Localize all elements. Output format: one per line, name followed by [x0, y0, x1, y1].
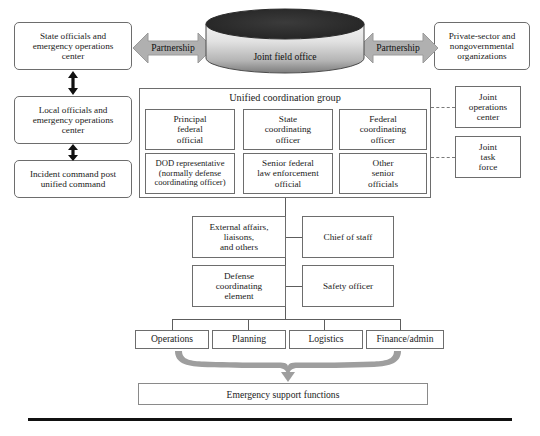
sections-drop-planning [248, 319, 249, 330]
finance-admin-box[interactable]: Finance/admin [366, 330, 444, 349]
joint-task-force-box[interactable]: Joint task force [455, 136, 521, 178]
logistics-label: Logistics [308, 334, 343, 345]
converging-brace-arrow [172, 349, 404, 383]
joint-field-office-diagram: Joint field office Partnership Partnersh… [0, 0, 540, 436]
dod-representative-box[interactable]: DOD representative (normally defense coo… [145, 153, 235, 194]
unified-coordination-group-title: Unified coordination group [139, 92, 431, 103]
federal-coordinating-officer-label: Federal coordinating officer [360, 114, 406, 145]
state-coordinating-officer-box[interactable]: State coordinating officer [243, 109, 333, 150]
defense-coordinating-element-box[interactable]: Defense coordinating element [192, 265, 286, 307]
emergency-support-functions-label: Emergency support functions [227, 389, 340, 400]
other-senior-officials-label: Other senior officials [368, 158, 398, 189]
bottom-rule [28, 418, 512, 421]
state-coordinating-officer-label: State coordinating officer [265, 114, 311, 145]
chief-of-staff-box[interactable]: Chief of staff [302, 216, 394, 258]
state-local-double-arrow [66, 71, 80, 95]
sections-drop-logistics [324, 319, 325, 330]
principal-federal-official-label: Principal federal official [173, 114, 206, 145]
state-officials-box[interactable]: State officials and emergency operations… [14, 22, 132, 70]
joint-task-force-label: Joint task force [479, 142, 498, 173]
sections-drop-operations [172, 319, 173, 330]
operations-label: Operations [151, 334, 193, 345]
local-officials-box[interactable]: Local officials and emergency operations… [14, 96, 132, 144]
finance-admin-label: Finance/admin [376, 334, 433, 345]
partnership-label-right: Partnership [358, 42, 438, 53]
safety-officer-label: Safety officer [323, 281, 373, 291]
dash-connector-joint-task-force [431, 157, 455, 158]
dash-connector-joint-ops [431, 107, 455, 108]
private-sector-box[interactable]: Private-sector and nongovernmental organ… [434, 22, 530, 70]
federal-coordinating-officer-box[interactable]: Federal coordinating officer [339, 109, 427, 150]
senior-federal-law-enforcement-box[interactable]: Senior federal law enforcement official [243, 153, 333, 194]
emergency-support-functions-box[interactable]: Emergency support functions [138, 383, 428, 405]
joint-operations-center-label: Joint operations center [469, 92, 507, 123]
operations-box[interactable]: Operations [135, 330, 209, 349]
logistics-box[interactable]: Logistics [289, 330, 363, 349]
external-affairs-box[interactable]: External affairs, liaisons, and others [192, 216, 286, 258]
partnership-label-left: Partnership [133, 42, 213, 53]
external-affairs-label: External affairs, liaisons, and others [209, 222, 268, 253]
defense-coordinating-element-label: Defense coordinating element [216, 271, 262, 302]
safety-officer-box[interactable]: Safety officer [302, 265, 394, 307]
incident-command-post-label: Incident command post unified command [30, 169, 116, 190]
sections-drop-finance [400, 319, 401, 330]
senior-federal-law-enforcement-label: Senior federal law enforcement official [257, 158, 318, 189]
private-sector-label: Private-sector and nongovernmental organ… [449, 31, 516, 62]
joint-field-office-cylinder: Joint field office [205, 8, 365, 80]
local-incident-double-arrow [66, 144, 80, 161]
joint-field-office-label: Joint field office [205, 51, 365, 62]
dod-representative-label: DOD representative (normally defense coo… [154, 159, 225, 188]
state-officials-label: State officials and emergency operations… [33, 31, 114, 62]
chief-of-staff-label: Chief of staff [324, 232, 373, 242]
staff-connector-row1 [286, 237, 302, 238]
sections-bus-line [172, 319, 400, 320]
joint-operations-center-box[interactable]: Joint operations center [455, 86, 521, 128]
incident-command-post-box[interactable]: Incident command post unified command [14, 160, 132, 198]
planning-box[interactable]: Planning [212, 330, 286, 349]
other-senior-officials-box[interactable]: Other senior officials [339, 153, 427, 194]
local-officials-label: Local officials and emergency operations… [33, 105, 114, 136]
principal-federal-official-box[interactable]: Principal federal official [145, 109, 235, 150]
planning-label: Planning [232, 334, 266, 345]
staff-connector-row2 [286, 286, 302, 287]
